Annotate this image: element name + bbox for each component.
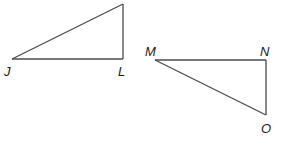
diagram-canvas: J L M N O <box>0 0 282 142</box>
triangle-jl: J L <box>3 4 125 79</box>
edge-j-top <box>12 4 123 59</box>
vertex-label-m: M <box>145 44 156 59</box>
vertex-label-j: J <box>3 64 11 79</box>
triangle-mno: M N O <box>145 44 271 136</box>
vertex-label-o: O <box>261 121 271 136</box>
vertex-label-l: L <box>118 64 125 79</box>
edge-mo <box>155 60 266 115</box>
vertex-label-n: N <box>260 44 270 59</box>
